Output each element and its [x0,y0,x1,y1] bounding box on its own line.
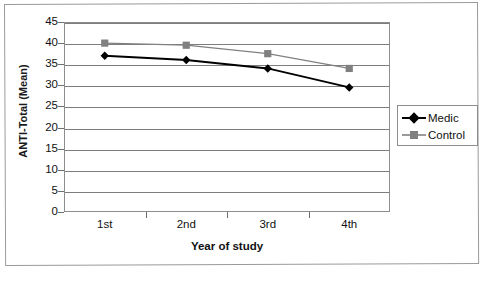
x-axis-tick-mark [309,212,310,218]
y-axis-tick-mark [58,191,64,192]
y-axis-tick-mark [58,22,64,23]
y-axis-tick-mark [58,64,64,65]
x-axis-tick-label: 3rd [238,218,298,230]
data-point-control [346,65,353,72]
y-axis-tick-label: 20 [30,122,58,134]
y-axis-tick-label: 30 [30,80,58,92]
x-axis-title: Year of study [64,240,390,252]
legend-label-medic: Medic [426,112,459,124]
y-axis-tick-mark [58,149,64,150]
y-axis-tick-label: 0 [30,206,58,218]
y-axis-tick-mark [58,128,64,129]
y-axis-tick-mark [58,85,64,86]
chart-legend: Medic Control [397,105,478,146]
x-axis-tick-label: 2nd [156,218,216,230]
y-axis-tick-mark [58,212,64,213]
line-chart: ANTI-Total (Mean) 454035302520151050 1st… [0,0,484,281]
data-point-medic [182,56,190,64]
legend-label-control: Control [426,129,465,141]
data-point-control [264,50,271,57]
data-point-medic [345,83,353,91]
data-point-control [183,42,190,49]
x-axis-tick-label: 1st [75,218,135,230]
y-axis-tick-label: 25 [30,101,58,113]
series-layer [64,22,390,212]
caption-fragment [4,272,124,281]
x-axis-tick-mark [146,212,147,218]
legend-marker-diamond-icon [402,111,426,125]
legend-entry-control: Control [402,126,473,143]
x-axis-tick-mark [227,212,228,218]
legend-marker-square-icon [402,128,426,142]
y-axis-tick-label: 5 [30,185,58,197]
y-axis-tick-label: 35 [30,58,58,70]
series-line-medic [105,56,350,88]
y-axis-tick-mark [58,106,64,107]
y-axis-tick-label: 15 [30,143,58,155]
y-axis-tick-label: 45 [30,16,58,28]
y-axis-tick-label: 40 [30,37,58,49]
y-axis-tick-label: 10 [30,164,58,176]
legend-entry-medic: Medic [402,109,473,126]
y-axis-tick-labels: 454035302520151050 [26,22,58,212]
data-point-medic [101,52,109,60]
x-axis-tick-label: 4th [319,218,379,230]
y-axis-tick-mark [58,43,64,44]
data-point-medic [264,64,272,72]
y-axis-tick-mark [58,170,64,171]
data-point-control [101,40,108,47]
